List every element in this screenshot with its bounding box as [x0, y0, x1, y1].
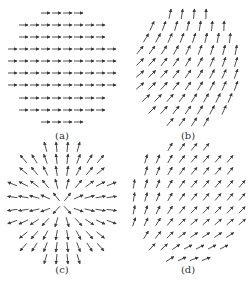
vector-arrow [20, 155, 27, 163]
vector-arrow [179, 118, 185, 126]
vector-arrow [199, 21, 201, 31]
vector-arrow [145, 180, 147, 189]
vector-arrow [31, 231, 38, 238]
panel-c-radial-field [8, 142, 117, 264]
vector-arrow [210, 70, 215, 79]
vector-arrow [203, 194, 209, 201]
vector-arrow [204, 94, 209, 103]
vector-arrow [32, 155, 37, 164]
vector-arrow [107, 209, 117, 210]
vector-arrow [184, 245, 192, 249]
vector-arrow [215, 168, 221, 175]
vector-arrow [56, 242, 57, 252]
vector-arrow [41, 195, 50, 199]
vector-arrow [202, 233, 209, 238]
vector-arrow [64, 193, 70, 201]
vector-arrow [203, 219, 210, 225]
vector-arrow [77, 154, 80, 163]
vector-arrow [181, 9, 183, 19]
vector-arrow [191, 219, 198, 225]
vector-arrow [179, 143, 184, 150]
vector-arrow [149, 244, 155, 251]
vector-arrow [226, 233, 233, 238]
vector-arrow [85, 209, 95, 211]
vector-arrow [67, 242, 68, 252]
vector-arrow [133, 180, 134, 189]
vector-arrow [156, 218, 161, 226]
vector-arrow [43, 231, 48, 240]
vector-arrow [44, 254, 47, 264]
vector-arrow [148, 71, 155, 78]
vector-arrow [227, 219, 234, 225]
vector-arrow [167, 94, 173, 102]
vector-arrow [133, 193, 134, 202]
vector-arrow [156, 155, 159, 163]
vector-arrow [20, 232, 28, 238]
vector-arrow [190, 257, 198, 260]
vector-arrow [8, 209, 18, 210]
vector-field-figure [0, 0, 249, 285]
vector-arrow [222, 105, 226, 114]
vector-arrow [173, 58, 179, 66]
vector-arrow [215, 181, 221, 188]
vector-arrow [74, 208, 83, 211]
vector-arrow [161, 70, 168, 77]
vector-arrow [150, 21, 154, 30]
vector-arrow [191, 207, 197, 214]
vector-arrow [168, 33, 172, 42]
vector-arrow [31, 167, 37, 175]
vector-arrow [74, 195, 83, 199]
vector-arrow [196, 245, 204, 249]
vector-arrow [191, 194, 197, 201]
vector-arrow [144, 231, 149, 239]
vector-arrow [76, 167, 80, 176]
vector-arrow [168, 180, 172, 188]
vector-arrow [107, 196, 117, 197]
vector-arrow [168, 143, 172, 151]
vector-arrow [97, 168, 105, 175]
vector-arrow [197, 82, 202, 91]
vector-arrow [167, 118, 173, 126]
vector-arrow [223, 45, 225, 55]
vector-arrow [179, 207, 185, 214]
panel-label-a: (a) [55, 130, 69, 141]
vector-arrow [217, 33, 219, 43]
vector-arrow [203, 168, 209, 175]
vector-arrow [168, 155, 172, 163]
vector-arrow [210, 82, 215, 91]
vector-arrow [56, 230, 58, 240]
vector-arrow [30, 181, 38, 187]
vector-arrow [96, 182, 105, 187]
vector-arrow [148, 107, 155, 114]
vector-arrow [194, 9, 195, 19]
vector-arrow [77, 142, 80, 152]
vector-arrow [56, 254, 57, 264]
vector-arrow [133, 218, 136, 227]
vector-arrow [197, 106, 202, 115]
vector-arrow [210, 45, 213, 55]
vector-arrow [77, 254, 80, 264]
vector-arrow [179, 219, 185, 225]
vector-arrow [96, 209, 106, 211]
vector-arrow [156, 167, 159, 175]
vector-arrow [53, 206, 60, 213]
vector-arrow [168, 167, 172, 175]
vector-arrow [220, 245, 228, 249]
vector-arrow [234, 69, 238, 78]
vector-arrow [175, 21, 178, 31]
vector-arrow [64, 206, 71, 213]
vector-arrow [85, 196, 95, 198]
vector-arrow [53, 193, 59, 201]
vector-arrow [211, 21, 212, 31]
vector-arrow [239, 194, 245, 201]
vector-arrow [234, 81, 238, 90]
vector-arrow [43, 167, 47, 176]
vector-arrow [216, 94, 220, 103]
vector-arrow [75, 180, 81, 188]
vector-arrow [215, 219, 222, 225]
vector-arrow [136, 71, 144, 78]
vector-arrow [67, 254, 68, 264]
vector-arrow [168, 193, 172, 201]
vector-arrow [178, 257, 186, 261]
vector-arrow [203, 207, 209, 214]
